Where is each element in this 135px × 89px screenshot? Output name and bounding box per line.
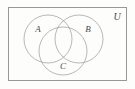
- universe-rectangle: [9, 8, 127, 81]
- venn-diagram-canvas: A B C U: [0, 0, 135, 89]
- label-set-c: C: [60, 61, 67, 71]
- label-set-b: B: [85, 24, 91, 34]
- venn-diagram-figure: A B C U: [0, 0, 135, 89]
- label-universe: U: [113, 11, 121, 22]
- circle-set-b: [55, 15, 103, 63]
- label-set-a: A: [34, 24, 41, 34]
- circle-set-a: [24, 15, 72, 63]
